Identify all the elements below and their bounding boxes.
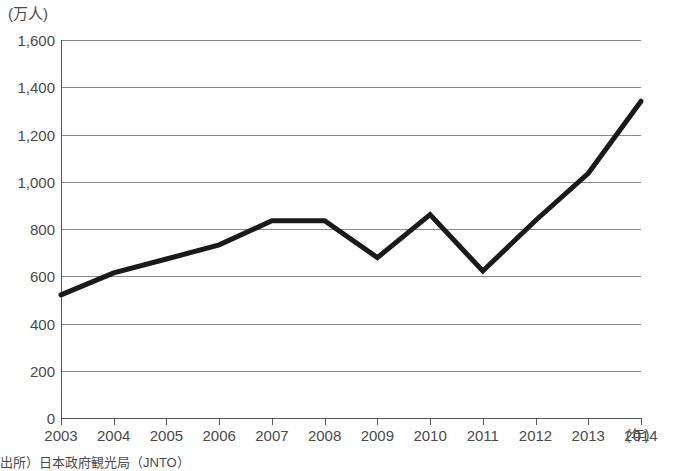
y-axis-tick-label: 0 — [3, 411, 55, 426]
gridline — [61, 135, 641, 136]
gridline — [61, 324, 641, 325]
x-axis-tick — [430, 418, 431, 425]
y-axis-tick-label: 800 — [3, 222, 55, 237]
gridline — [61, 276, 641, 277]
x-axis-tick — [219, 418, 220, 425]
gridline — [61, 229, 641, 230]
x-axis-line — [61, 418, 641, 419]
x-axis-tick — [272, 418, 273, 425]
y-axis-tick-label: 600 — [3, 269, 55, 284]
y-axis-tick-label: 400 — [3, 316, 55, 331]
y-axis-tick-label: 1,000 — [3, 174, 55, 189]
x-axis-unit-label: (年) — [626, 424, 649, 444]
plot-area — [61, 40, 641, 418]
x-axis-tick — [61, 418, 62, 425]
x-axis-tick-label: 2010 — [402, 427, 458, 444]
y-axis-tick-label: 1,600 — [3, 33, 55, 48]
x-axis-tick-label: 2004 — [86, 427, 142, 444]
x-axis-tick — [166, 418, 167, 425]
y-axis-unit-label: (万人) — [8, 2, 48, 23]
x-axis-tick-label: 2011 — [455, 427, 511, 444]
x-axis-tick — [114, 418, 115, 425]
x-axis-tick-label: 2012 — [508, 427, 564, 444]
gridline — [61, 87, 641, 88]
y-axis-tick-label: 1,200 — [3, 127, 55, 142]
line-chart-figure: (万人) 1,6001,4001,2001,0008006004002000 2… — [0, 0, 678, 471]
gridline — [61, 40, 641, 41]
x-axis-tick — [483, 418, 484, 425]
x-axis-tick — [377, 418, 378, 425]
y-axis-tick-labels: 1,6001,4001,2001,0008006004002000 — [0, 40, 55, 418]
x-axis-tick-label: 2007 — [244, 427, 300, 444]
x-axis-tick-label: 2006 — [191, 427, 247, 444]
x-axis-tick-label: 2003 — [33, 427, 89, 444]
x-axis-tick-label: 2013 — [560, 427, 616, 444]
x-axis-tick-label: 2005 — [138, 427, 194, 444]
gridline — [61, 371, 641, 372]
source-note: 出所）日本政府観光局（JNTO） — [0, 452, 678, 471]
x-axis-tick-label: 2009 — [349, 427, 405, 444]
gridline — [61, 182, 641, 183]
y-axis-tick-label: 1,400 — [3, 80, 55, 95]
x-axis-tick — [588, 418, 589, 425]
x-axis-tick — [325, 418, 326, 425]
x-axis-tick-label: 2008 — [297, 427, 353, 444]
x-axis-tick — [536, 418, 537, 425]
y-axis-line — [61, 40, 62, 419]
y-axis-tick-label: 200 — [3, 363, 55, 378]
